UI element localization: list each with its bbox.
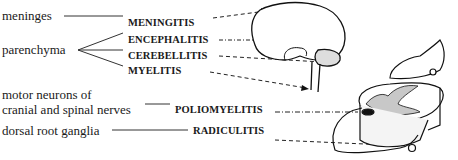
arrowhead-icon (301, 85, 309, 91)
myelitis-arrow (210, 72, 306, 88)
brain-illustration (252, 3, 345, 92)
disease-meningitis: MENINGITIS (128, 17, 194, 29)
parenchyma-to-encephalitis (78, 33, 123, 50)
disease-radiculitis: RADICULITIS (193, 125, 264, 137)
label-meninges: meninges (2, 9, 52, 23)
spinal-cord-illustration (333, 40, 444, 153)
label-dorsal-root-ganglia: dorsal root ganglia (2, 124, 99, 138)
parenchyma-to-myelitis (78, 50, 123, 66)
disease-encephalitis: ENCEPHALITIS (128, 34, 209, 46)
label-motor-neurons-line2: cranial and spinal nerves (2, 103, 131, 117)
label-parenchyma: parenchyma (2, 43, 66, 57)
disease-cerebellitis: CEREBELLITIS (128, 50, 207, 62)
disease-myelitis: MYELITIS (128, 65, 181, 77)
label-motor-neurons-line1: motor neurons of (2, 88, 92, 102)
disease-poliomyelitis: POLIOMYELITIS (175, 104, 263, 116)
